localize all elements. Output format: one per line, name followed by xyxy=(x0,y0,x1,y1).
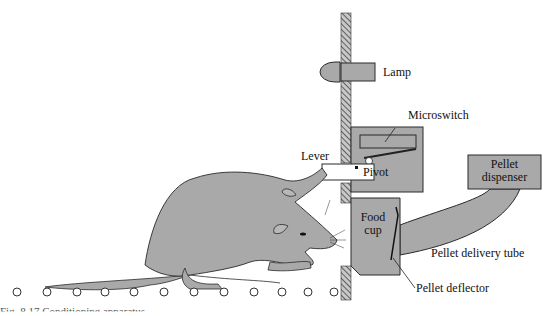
pivot-point xyxy=(355,166,358,169)
label-pellet-delivery-tube: Pellet delivery tube xyxy=(431,247,524,259)
wall-lower xyxy=(341,266,351,300)
floor-grid xyxy=(13,288,338,296)
wall-middle xyxy=(341,183,351,203)
label-food-cup-line2: cup xyxy=(353,224,393,236)
label-pellet-deflector: Pellet deflector xyxy=(416,282,489,294)
lamp-dome-icon xyxy=(320,62,340,82)
label-pellet-dispenser-line2: dispenser xyxy=(468,171,541,183)
wall-upper xyxy=(341,13,351,163)
lamp-body xyxy=(341,63,375,81)
microswitch xyxy=(360,135,416,148)
label-lamp: Lamp xyxy=(383,66,411,78)
rat-illustration xyxy=(45,168,346,290)
label-food-cup-line1: Food xyxy=(353,211,393,223)
label-microswitch: Microswitch xyxy=(408,109,469,121)
label-lever: Lever xyxy=(301,150,329,162)
label-pellet-dispenser-line1: Pellet xyxy=(468,158,541,170)
switch-roller xyxy=(366,158,373,165)
label-pivot: Pivot xyxy=(363,166,388,178)
